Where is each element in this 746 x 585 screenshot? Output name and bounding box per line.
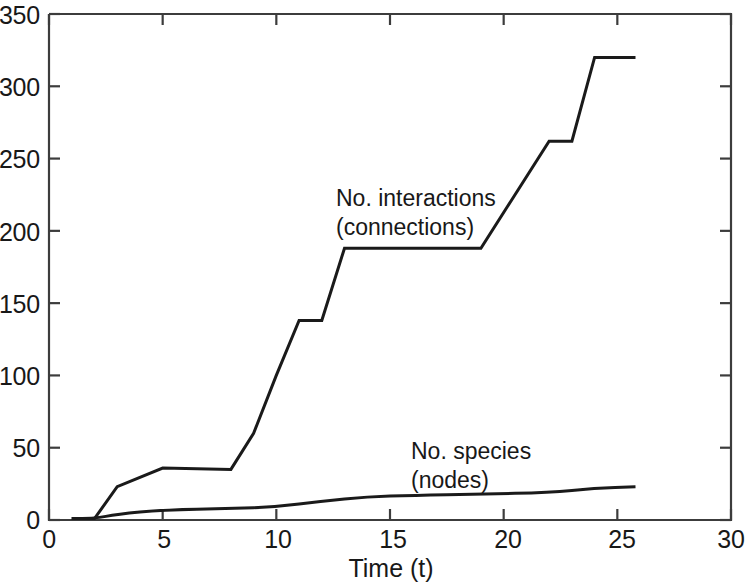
x-tick-label: 15: [363, 525, 423, 554]
axes-frame: [49, 14, 731, 520]
y-tick-label: 200: [0, 218, 40, 247]
x-tick-label: 25: [592, 525, 652, 554]
species-annotation: No. species (nodes): [411, 437, 531, 495]
interactions-annotation-line1: No. interactions: [336, 184, 496, 213]
plot-border: [49, 14, 731, 520]
x-tick-label: 20: [478, 525, 538, 554]
y-tick-label: 250: [0, 145, 40, 174]
interactions-annotation-line2: (connections): [336, 213, 496, 242]
species-annotation-line2: (nodes): [411, 466, 531, 495]
x-tick-label: 30: [701, 525, 746, 554]
species-annotation-line1: No. species: [411, 437, 531, 466]
y-tick-label: 300: [0, 73, 40, 102]
series-line-species: [72, 487, 636, 519]
y-tick-label: 150: [0, 290, 40, 319]
chart-canvas: [0, 0, 746, 585]
x-tick-label: 0: [19, 525, 79, 554]
x-axis-ticks: [49, 14, 731, 520]
chart-figure: 350 300 250 200 150 100 50 0 0 5 10 15 2…: [0, 0, 746, 585]
x-tick-label: 10: [248, 525, 308, 554]
y-tick-label: 100: [0, 362, 40, 391]
series-line-interactions: [72, 57, 636, 518]
y-tick-label: 350: [0, 1, 40, 30]
interactions-annotation: No. interactions (connections): [336, 184, 496, 242]
x-tick-label: 5: [134, 525, 194, 554]
x-axis-title: Time (t): [306, 554, 476, 583]
data-series-group: [72, 57, 636, 518]
y-axis-ticks: [49, 14, 731, 520]
y-tick-label: 50: [0, 434, 40, 463]
